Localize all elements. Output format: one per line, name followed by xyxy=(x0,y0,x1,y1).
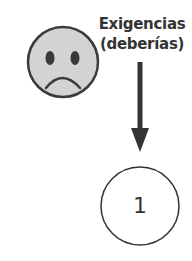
step-number: 1 xyxy=(100,166,180,246)
sad-face-icon xyxy=(0,0,100,110)
label-line-1: Exigencias xyxy=(92,14,192,34)
step-node-1: 1 xyxy=(100,166,180,246)
down-arrow-icon xyxy=(130,62,150,154)
exigencias-label: Exigencias (deberías) xyxy=(92,14,192,54)
label-line-2: (deberías) xyxy=(92,34,192,54)
